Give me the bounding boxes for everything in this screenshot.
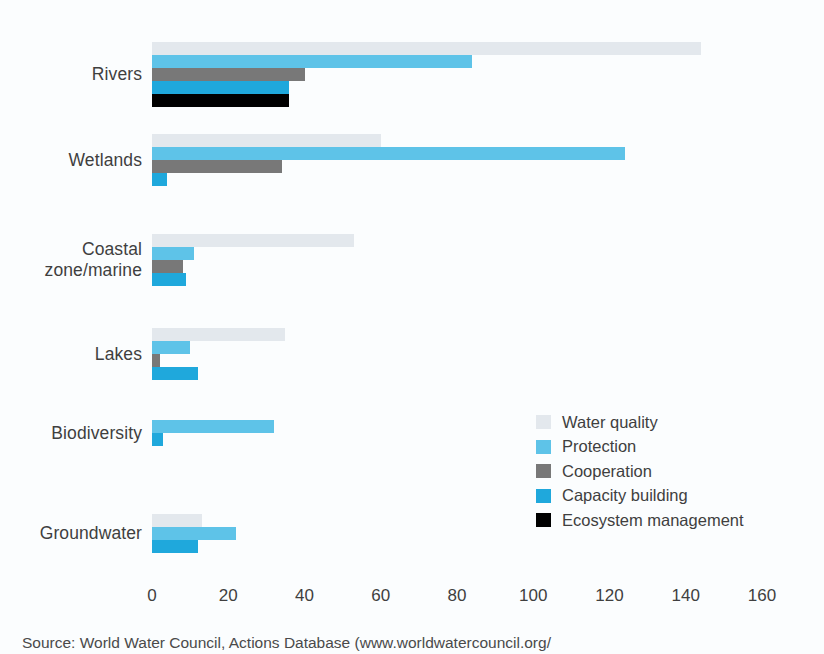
bar (152, 173, 167, 186)
bar (152, 514, 202, 527)
legend: Water qualityProtectionCooperationCapaci… (536, 410, 806, 533)
bar-fill (152, 55, 472, 68)
x-axis: 020406080100120140160 (152, 586, 762, 612)
bar (152, 420, 274, 433)
bar (152, 55, 472, 68)
bar (152, 42, 701, 55)
legend-label: Ecosystem management (562, 511, 744, 530)
bar (152, 94, 289, 107)
bar-fill (152, 420, 274, 433)
bar (152, 147, 625, 160)
bar-fill (152, 68, 305, 81)
bar (152, 234, 354, 247)
legend-label: Protection (562, 437, 636, 456)
bar (152, 247, 194, 260)
x-tick-label: 120 (595, 586, 623, 606)
x-tick-label: 160 (748, 586, 776, 606)
bar (152, 540, 198, 553)
x-tick-label: 100 (519, 586, 547, 606)
bar (152, 367, 198, 380)
x-tick-label: 60 (371, 586, 390, 606)
legend-item: Protection (536, 435, 806, 460)
bar-fill (152, 354, 160, 367)
category-label: Wetlands (2, 150, 142, 171)
bar (152, 260, 183, 273)
legend-label: Capacity building (562, 486, 688, 505)
bar (152, 354, 160, 367)
legend-swatch-icon (536, 415, 551, 429)
bar (152, 134, 381, 147)
bar-fill (152, 433, 163, 446)
category-axis: RiversWetlandsCoastalzone/marineLakesBio… (0, 30, 142, 575)
legend-label: Cooperation (562, 462, 652, 481)
legend-item: Ecosystem management (536, 508, 806, 533)
x-tick-label: 40 (295, 586, 314, 606)
legend-label: Water quality (562, 413, 658, 432)
bar (152, 527, 236, 540)
bar-fill (152, 147, 625, 160)
legend-swatch-icon (536, 513, 551, 527)
x-tick-label: 20 (219, 586, 238, 606)
legend-swatch-icon (536, 489, 551, 503)
bar-fill (152, 134, 381, 147)
bar-fill (152, 540, 198, 553)
legend-swatch-icon (536, 440, 551, 454)
bar (152, 341, 190, 354)
bar-fill (152, 260, 183, 273)
bar (152, 273, 186, 286)
legend-item: Water quality (536, 410, 806, 435)
legend-item: Capacity building (536, 484, 806, 509)
bar-fill (152, 514, 202, 527)
bar-fill (152, 328, 285, 341)
bar (152, 68, 305, 81)
bar-fill (152, 81, 289, 94)
bar-fill (152, 94, 289, 107)
x-tick-label: 0 (147, 586, 156, 606)
legend-item: Cooperation (536, 459, 806, 484)
category-label: Groundwater (2, 523, 142, 544)
legend-swatch-icon (536, 464, 551, 478)
bar-fill (152, 234, 354, 247)
bar-fill (152, 247, 194, 260)
x-tick-label: 140 (672, 586, 700, 606)
bar-fill (152, 160, 282, 173)
bar-fill (152, 173, 167, 186)
bar-fill (152, 341, 190, 354)
x-tick-label: 80 (448, 586, 467, 606)
bar-fill (152, 527, 236, 540)
chart-container: RiversWetlandsCoastalzone/marineLakesBio… (0, 0, 824, 654)
category-label: Coastalzone/marine (2, 239, 142, 281)
bar (152, 81, 289, 94)
bar (152, 328, 285, 341)
category-label: Biodiversity (2, 423, 142, 444)
bar-fill (152, 273, 186, 286)
bar-fill (152, 42, 701, 55)
category-label: Lakes (2, 344, 142, 365)
bar (152, 160, 282, 173)
source-note: Source: World Water Council, Actions Dat… (22, 634, 551, 652)
bar-fill (152, 367, 198, 380)
category-label: Rivers (2, 64, 142, 85)
bar (152, 433, 163, 446)
